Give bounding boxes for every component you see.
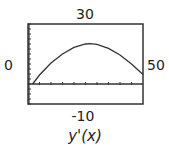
axes (28, 24, 143, 104)
plot-area (0, 0, 169, 152)
plot-frame (28, 24, 143, 104)
curve-y-prime (33, 44, 143, 84)
